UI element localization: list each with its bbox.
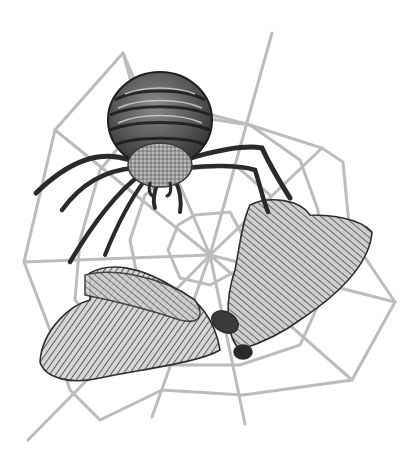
moth-head <box>234 345 252 359</box>
moth-right-wing <box>228 200 372 350</box>
illustration <box>0 0 417 461</box>
spider-moth-web-illustration <box>0 0 417 461</box>
spider <box>108 72 212 196</box>
spider-cephalothorax <box>128 143 192 187</box>
